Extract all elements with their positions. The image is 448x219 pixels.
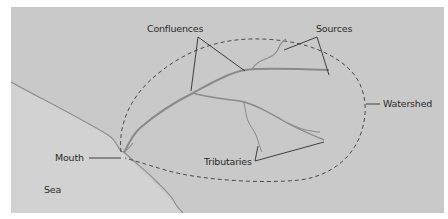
main-river xyxy=(124,69,329,153)
label-sea: Sea xyxy=(44,185,61,195)
label-confluences: Confluences xyxy=(147,24,203,34)
diagram-canvas xyxy=(11,7,444,213)
upper-tributary xyxy=(252,39,286,69)
lower-branch xyxy=(193,93,324,140)
tributaries-pointer xyxy=(255,142,324,161)
confluences-pointer xyxy=(191,37,245,91)
downward-tributary xyxy=(244,103,262,152)
label-tributaries: Tributaries xyxy=(204,157,252,167)
label-mouth: Mouth xyxy=(55,153,84,163)
label-sources: Sources xyxy=(316,24,352,34)
label-watershed: Watershed xyxy=(383,99,432,109)
sea-region xyxy=(11,82,182,213)
river-diagram: Confluences Sources Watershed Mouth Trib… xyxy=(11,7,444,213)
